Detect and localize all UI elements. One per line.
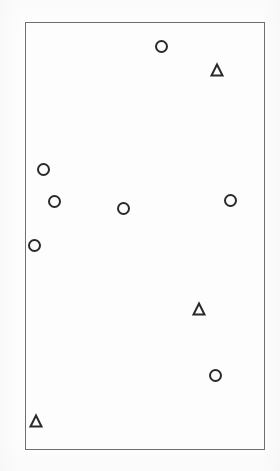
circle-marker (117, 202, 130, 215)
circle-marker (37, 163, 50, 176)
circle-marker (28, 239, 41, 252)
triangle-marker (210, 63, 224, 77)
circle-marker (48, 195, 61, 208)
scatter-plot-figure (0, 0, 280, 471)
circle-marker (209, 369, 222, 382)
triangle-marker (192, 302, 206, 316)
circle-marker (155, 40, 168, 53)
plot-axes-frame (25, 22, 265, 450)
circle-marker (224, 194, 237, 207)
triangle-marker (29, 414, 43, 428)
